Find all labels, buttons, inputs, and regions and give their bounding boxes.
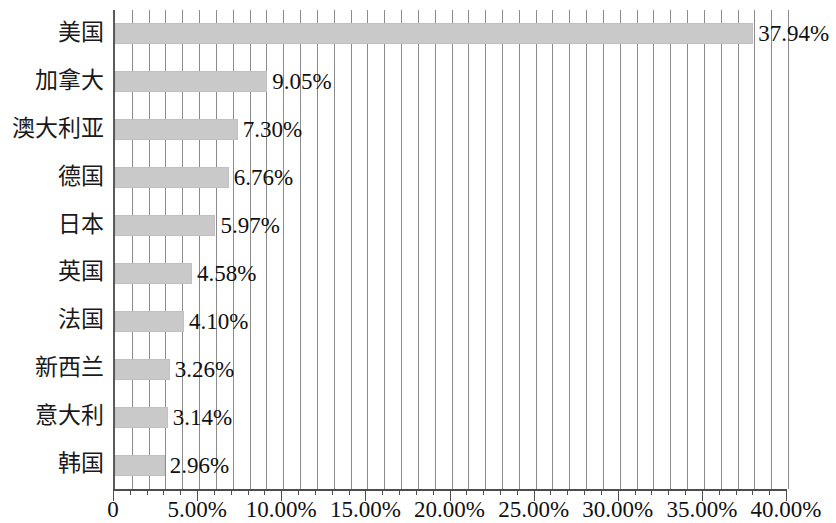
category-label: 意大利 (35, 404, 104, 427)
bar (115, 215, 215, 236)
category-label: 加拿大 (35, 69, 104, 92)
x-tick-label: 0 (107, 497, 119, 523)
x-tick-minor (147, 489, 148, 495)
x-tick-label: 15.00% (330, 497, 401, 523)
x-tick-minor (517, 489, 518, 495)
bar-value-label: 4.10% (189, 311, 248, 332)
category-label: 法国 (58, 308, 104, 331)
x-tick-minor (635, 489, 636, 495)
x-tick-minor (416, 489, 417, 495)
x-tick-minor (550, 489, 551, 495)
bar-series: 37.94%9.05%7.30%6.76%5.97%4.58%4.10%3.26… (115, 10, 786, 489)
bar (115, 407, 168, 428)
bar-value-label: 5.97% (220, 215, 279, 236)
x-tick-minor (214, 489, 215, 495)
bar-value-label: 37.94% (758, 23, 829, 44)
x-tick-minor (601, 489, 602, 495)
bar (115, 167, 229, 188)
x-tick-label: 30.00% (582, 497, 653, 523)
x-tick-minor (382, 489, 383, 495)
x-tick-label: 10.00% (246, 497, 317, 523)
category-label: 德国 (58, 165, 104, 188)
x-tick-minor (231, 489, 232, 495)
bar-value-label: 3.26% (175, 359, 234, 380)
x-tick-minor (651, 489, 652, 495)
x-tick-minor (769, 489, 770, 495)
x-tick-minor (180, 489, 181, 495)
x-tick-minor (719, 489, 720, 495)
x-tick-minor (399, 489, 400, 495)
x-tick-label: 20.00% (414, 497, 485, 523)
category-axis-labels: 美国加拿大澳大利亚德国日本英国法国新西兰意大利韩国 (0, 10, 108, 489)
x-tick-minor (567, 489, 568, 495)
category-label: 英国 (58, 260, 104, 283)
bar-value-label: 2.96% (170, 455, 229, 476)
gridline (788, 10, 789, 489)
category-label: 日本 (58, 213, 104, 236)
bar-value-label: 6.76% (234, 167, 293, 188)
bar (115, 119, 238, 140)
bar-value-label: 9.05% (272, 71, 331, 92)
bar (115, 455, 165, 476)
x-tick-minor (163, 489, 164, 495)
bar-value-label: 7.30% (243, 119, 302, 140)
bar-value-label: 4.58% (197, 263, 256, 284)
x-tick-label: 40.00% (751, 497, 822, 523)
bar (115, 311, 184, 332)
x-tick-minor (298, 489, 299, 495)
horizontal-bar-chart: 美国加拿大澳大利亚德国日本英国法国新西兰意大利韩国 37.94%9.05%7.3… (0, 0, 836, 523)
x-tick-minor (248, 489, 249, 495)
category-label: 澳大利亚 (12, 117, 104, 140)
x-tick-minor (668, 489, 669, 495)
x-tick-minor (349, 489, 350, 495)
x-tick-minor (264, 489, 265, 495)
x-tick-label: 25.00% (498, 497, 569, 523)
x-tick-minor (483, 489, 484, 495)
x-tick-minor (685, 489, 686, 495)
x-tick-minor (500, 489, 501, 495)
x-tick-minor (466, 489, 467, 495)
bar-value-label: 3.14% (173, 407, 232, 428)
category-label: 新西兰 (35, 356, 104, 379)
category-label: 韩国 (58, 452, 104, 475)
category-label: 美国 (58, 21, 104, 44)
x-tick-minor (584, 489, 585, 495)
x-tick-minor (130, 489, 131, 495)
x-tick-minor (433, 489, 434, 495)
x-tick-minor (315, 489, 316, 495)
x-tick-minor (332, 489, 333, 495)
x-axis-tick-labels: 05.00%10.00%15.00%20.00%25.00%30.00%35.0… (0, 497, 836, 523)
bar (115, 359, 170, 380)
bar (115, 71, 267, 92)
bar (115, 23, 753, 44)
x-tick-label: 35.00% (666, 497, 737, 523)
x-tick-minor (736, 489, 737, 495)
x-tick-label: 5.00% (167, 497, 226, 523)
x-tick-minor (752, 489, 753, 495)
bar (115, 263, 192, 284)
plot-area: 37.94%9.05%7.30%6.76%5.97%4.58%4.10%3.26… (113, 10, 786, 489)
